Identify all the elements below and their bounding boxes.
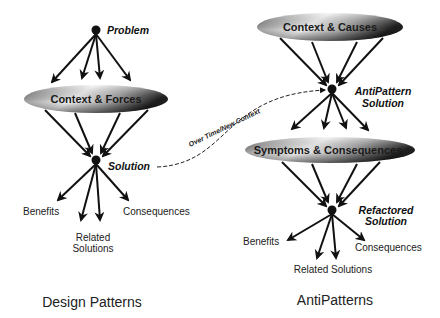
antipattern-label-line2: Solution xyxy=(362,97,404,109)
ap-benefits-label: Benefits xyxy=(243,236,279,247)
symptoms-consequences-label: Symptoms & Consequences xyxy=(254,144,403,156)
related-solutions-label-line1: Related xyxy=(76,232,110,243)
antipattern-label-line1: AntiPattern xyxy=(354,85,412,97)
solution-label: Solution xyxy=(108,160,150,172)
context-causes-label: Context & Causes xyxy=(283,21,377,33)
antipattern-solution-node xyxy=(328,85,337,94)
ap-related-solutions-label: Related Solutions xyxy=(294,264,372,275)
context-causes-ellipse: Context & Causes xyxy=(257,13,403,41)
antipattern-arrows xyxy=(292,93,368,130)
related-solutions-label-line2: Solutions xyxy=(72,243,113,254)
context-forces-label: Context & Forces xyxy=(50,93,141,105)
refactored-outcome-arrows xyxy=(288,214,364,258)
problem-label: Problem xyxy=(107,24,149,36)
diagram-svg: Problem Context & Forces Solution xyxy=(0,0,440,318)
refactored-label-line2: Solution xyxy=(365,215,407,227)
symptoms-consequences-ellipse: Symptoms & Consequences xyxy=(245,137,415,163)
design-patterns-title: Design Patterns xyxy=(42,294,142,310)
outcome-arrows xyxy=(58,164,128,220)
refactored-solution-node xyxy=(328,206,337,215)
problem-node xyxy=(92,26,101,35)
context-forces-ellipse: Context & Forces xyxy=(24,85,168,113)
design-patterns-group: Problem Context & Forces Solution xyxy=(23,24,190,310)
over-time-label: Over Time/New Context xyxy=(187,107,261,148)
symptoms-arrows xyxy=(282,162,380,206)
consequences-label: Consequences xyxy=(123,206,190,217)
forces-arrows xyxy=(45,110,148,156)
ap-consequences-label: Consequences xyxy=(355,242,422,253)
problem-arrows xyxy=(52,34,130,82)
benefits-label: Benefits xyxy=(23,206,59,217)
patterns-vs-antipatterns-diagram: Problem Context & Forces Solution xyxy=(0,0,440,318)
solution-node xyxy=(92,156,101,165)
antipatterns-title: AntiPatterns xyxy=(297,292,373,308)
antipatterns-group: Context & Causes AntiPattern Solution Sy… xyxy=(243,13,422,308)
causes-arrows xyxy=(280,38,383,85)
